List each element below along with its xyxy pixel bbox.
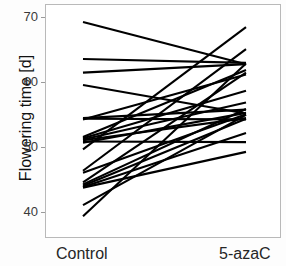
y-tick-label: 50 [12,139,38,154]
x-tick-label-treatment: 5-azaC [219,245,271,263]
plot-area [45,4,281,238]
y-tick-label: 70 [12,9,38,24]
y-tick-label: 40 [12,204,38,219]
y-tick-label: 60 [12,74,38,89]
slope-chart-lines [46,5,282,239]
chart-figure: Flowering time [d] 40506070 Control5-aza… [0,0,286,266]
data-line [83,152,246,188]
data-line [83,64,246,217]
x-tick-label-control: Control [56,245,108,263]
data-line [83,59,246,63]
y-axis-label: Flowering time [d] [17,33,37,203]
data-line [83,22,246,64]
data-line [83,114,246,173]
